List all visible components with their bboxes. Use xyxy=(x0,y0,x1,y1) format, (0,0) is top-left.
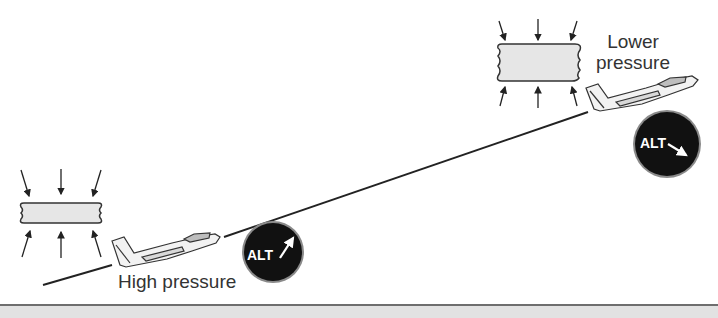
lower-pressure-label: Lower pressure xyxy=(588,31,678,73)
ground-band xyxy=(0,304,718,318)
airplane-icon xyxy=(586,76,698,111)
high-pressure-text: High pressure xyxy=(118,271,236,292)
altimeter-dial-right: ALT xyxy=(633,110,701,178)
alt-label: ALT xyxy=(640,135,667,151)
high-pressure-label: High pressure xyxy=(118,271,236,292)
lower-pressure-line1: Lower xyxy=(588,31,678,52)
alt-label: ALT xyxy=(247,247,274,263)
altimeter-dial-left: ALT xyxy=(242,221,304,283)
airplane-icon xyxy=(112,233,220,267)
low-pressure-box xyxy=(498,44,581,81)
lower-pressure-line2: pressure xyxy=(588,52,678,73)
high-pressure-box xyxy=(20,203,101,223)
